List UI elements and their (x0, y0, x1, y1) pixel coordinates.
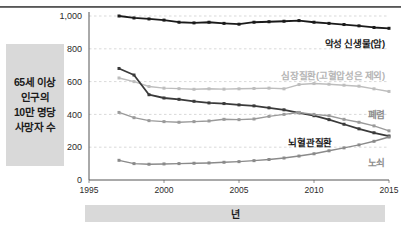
y-axis-ticks: 02004006008001,000 (59, 11, 82, 185)
series-label: 심장질환(고혈압성은 제외) (281, 70, 385, 81)
svg-text:2000: 2000 (155, 185, 174, 195)
series-labels: 악성 신생물(암)심장질환(고혈압성은 제외)폐렴뇌혈관질환노쇠 (281, 38, 385, 168)
x-axis-caption-label: 년 (231, 206, 240, 221)
svg-text:2015: 2015 (380, 185, 399, 195)
x-axis-caption-bar: 년 (85, 205, 385, 222)
svg-text:600: 600 (67, 77, 82, 87)
svg-text:2010: 2010 (305, 185, 324, 195)
chart-svg: 02004006008001,000 19952000200520102015 … (0, 0, 401, 205)
series-label: 악성 신생물(암) (325, 38, 385, 49)
series-label: 폐렴 (368, 109, 385, 120)
x-axis-ticks: 19952000200520102015 (80, 180, 399, 195)
svg-text:2005: 2005 (230, 185, 249, 195)
series-label: 노쇠 (368, 157, 385, 168)
svg-text:1995: 1995 (80, 185, 99, 195)
figure-root: 65세 이상 인구의 10만 명당 사망자 수 02004006008001,0… (0, 0, 401, 233)
line-chart: 02004006008001,000 19952000200520102015 … (0, 0, 401, 205)
svg-text:0: 0 (77, 175, 82, 185)
svg-text:800: 800 (67, 44, 82, 54)
series-label: 뇌혈관질환 (288, 137, 332, 148)
svg-text:200: 200 (67, 142, 82, 152)
svg-text:1,000: 1,000 (59, 11, 82, 21)
svg-text:400: 400 (67, 110, 82, 120)
